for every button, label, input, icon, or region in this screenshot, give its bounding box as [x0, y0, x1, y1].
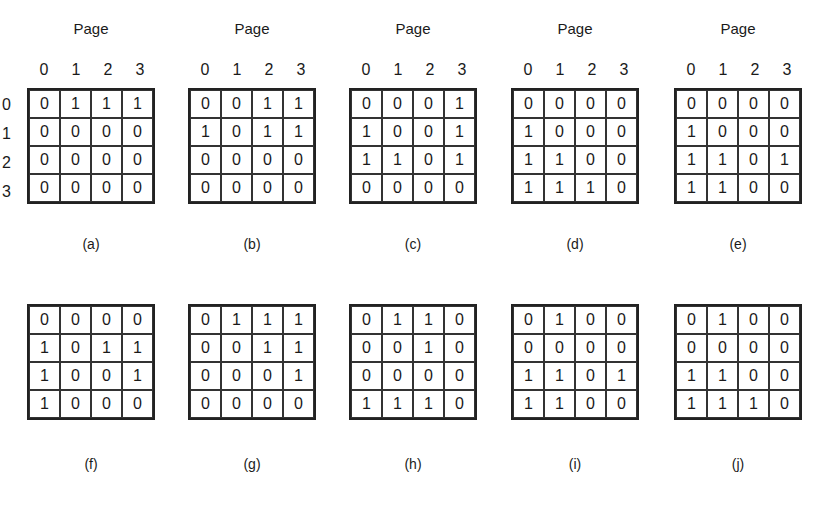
column-label: 2	[253, 61, 285, 79]
matrix-cell: 0	[575, 390, 606, 418]
matrix-cell: 0	[252, 362, 283, 390]
matrix-cell: 0	[738, 146, 769, 174]
subfigure-caption: (h)	[349, 456, 477, 472]
matrix-cell: 0	[252, 146, 283, 174]
page-axis-title: Page	[349, 20, 477, 37]
matrix-cell: 1	[382, 146, 413, 174]
matrix-cell: 0	[283, 146, 314, 174]
matrix-cell: 0	[676, 306, 707, 334]
page-column-labels: 0123	[189, 61, 317, 79]
subfigure-caption: (i)	[511, 456, 639, 472]
matrix-cell: 0	[221, 334, 252, 362]
subfigure-caption: (c)	[349, 236, 477, 252]
matrix-cell: 0	[606, 118, 637, 146]
column-label: 3	[124, 61, 156, 79]
matrix-cell: 0	[221, 90, 252, 118]
column-label: 1	[544, 61, 576, 79]
matrix-cell: 1	[29, 362, 60, 390]
matrix-cell: 0	[513, 334, 544, 362]
matrix-cell: 1	[122, 90, 153, 118]
matrix-cell: 0	[738, 118, 769, 146]
column-label: 3	[771, 61, 803, 79]
reference-matrix-i: 0100000011011100	[511, 304, 639, 420]
matrix-cell: 0	[29, 174, 60, 202]
matrix-cell: 1	[283, 118, 314, 146]
subfigure-caption: (d)	[511, 236, 639, 252]
matrix-cell: 1	[513, 146, 544, 174]
matrix-cell: 1	[707, 146, 738, 174]
matrix-cell: 0	[91, 174, 122, 202]
matrix-cell: 0	[283, 390, 314, 418]
subfigure-caption: (f)	[27, 456, 155, 472]
matrix-cell: 0	[575, 334, 606, 362]
matrix-cell: 0	[190, 306, 221, 334]
matrix-cell: 1	[351, 146, 382, 174]
column-label: 2	[739, 61, 771, 79]
matrix-cell: 0	[544, 334, 575, 362]
matrix-cell: 0	[382, 90, 413, 118]
matrix-cell: 1	[382, 306, 413, 334]
reference-matrix-e: 0000100011011100	[674, 88, 802, 204]
matrix-cell: 1	[122, 362, 153, 390]
matrix-cell: 0	[769, 306, 800, 334]
matrix-cell: 0	[738, 362, 769, 390]
matrix-cell: 0	[221, 362, 252, 390]
matrix-cell: 1	[769, 146, 800, 174]
matrix-cell: 0	[190, 334, 221, 362]
matrix-cell: 1	[544, 390, 575, 418]
matrix-cell: 0	[769, 390, 800, 418]
column-label: 1	[221, 61, 253, 79]
matrix-cell: 1	[413, 334, 444, 362]
matrix-cell: 0	[29, 118, 60, 146]
row-label: 2	[2, 148, 11, 177]
matrix-cell: 0	[221, 146, 252, 174]
row-label: 3	[2, 177, 11, 206]
column-label: 2	[414, 61, 446, 79]
matrix-cell: 0	[221, 118, 252, 146]
matrix-cell: 1	[676, 174, 707, 202]
reference-matrix-j: 0100000011001110	[674, 304, 802, 420]
matrix-cell: 0	[575, 362, 606, 390]
matrix-cell: 0	[60, 362, 91, 390]
matrix-cell: 0	[444, 334, 475, 362]
matrix-cell: 0	[29, 90, 60, 118]
matrix-cell: 0	[676, 90, 707, 118]
matrix-cell: 0	[413, 362, 444, 390]
matrix-cell: 1	[351, 118, 382, 146]
column-label: 3	[608, 61, 640, 79]
matrix-cell: 1	[283, 362, 314, 390]
page-column-labels: 0123	[675, 61, 803, 79]
column-label: 1	[382, 61, 414, 79]
matrix-cell: 1	[676, 362, 707, 390]
column-label: 3	[446, 61, 478, 79]
matrix-cell: 0	[122, 306, 153, 334]
matrix-cell: 1	[707, 306, 738, 334]
matrix-cell: 0	[769, 334, 800, 362]
page-row-labels: 0123	[2, 90, 11, 206]
matrix-cell: 0	[707, 118, 738, 146]
matrix-cell: 0	[606, 90, 637, 118]
matrix-cell: 0	[513, 90, 544, 118]
matrix-cell: 1	[707, 174, 738, 202]
matrix-cell: 0	[351, 174, 382, 202]
matrix-cell: 1	[544, 174, 575, 202]
matrix-cell: 0	[707, 90, 738, 118]
matrix-cell: 0	[444, 306, 475, 334]
page-column-labels: 0123	[512, 61, 640, 79]
matrix-cell: 0	[190, 390, 221, 418]
column-label: 0	[350, 61, 382, 79]
matrix-cell: 0	[575, 90, 606, 118]
reference-matrix-a: 0111000000000000	[27, 88, 155, 204]
matrix-cell: 0	[444, 362, 475, 390]
column-label: 3	[285, 61, 317, 79]
matrix-cell: 1	[544, 362, 575, 390]
matrix-cell: 0	[513, 306, 544, 334]
matrix-cell: 0	[351, 334, 382, 362]
matrix-cell: 1	[676, 146, 707, 174]
matrix-cell: 1	[29, 334, 60, 362]
matrix-cell: 0	[190, 146, 221, 174]
matrix-cell: 0	[413, 118, 444, 146]
matrix-cell: 0	[122, 390, 153, 418]
matrix-cell: 0	[382, 362, 413, 390]
matrix-cell: 1	[513, 174, 544, 202]
